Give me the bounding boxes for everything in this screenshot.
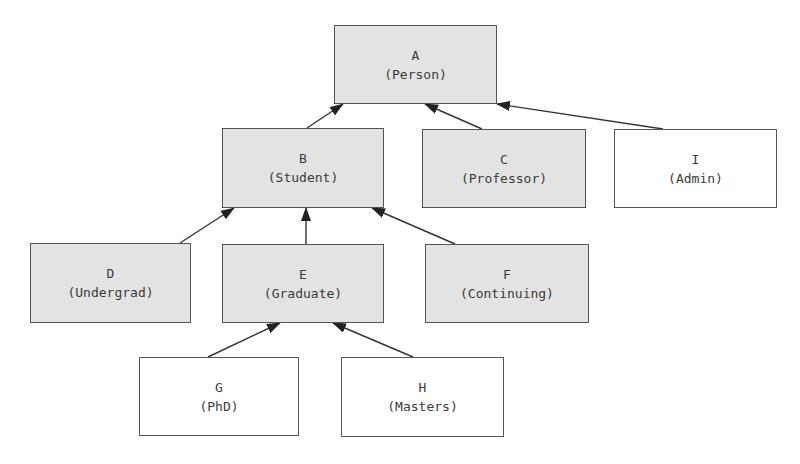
node-label: (PhD) (199, 397, 238, 416)
inheritance-arrow-f-to-b (372, 208, 455, 244)
node-label: (Admin) (668, 169, 723, 188)
class-hierarchy-diagram: A (Person) B (Student) C (Professor) I (… (0, 0, 800, 464)
inheritance-arrow-i-to-a (497, 104, 663, 129)
node-b-student: B (Student) (222, 128, 384, 208)
node-letter: H (419, 378, 427, 397)
node-label: (Professor) (461, 169, 547, 188)
node-label: (Person) (384, 65, 447, 84)
inheritance-arrow-c-to-a (425, 104, 482, 129)
node-letter: C (500, 150, 508, 169)
inheritance-arrow-h-to-e (333, 323, 413, 357)
node-c-professor: C (Professor) (422, 129, 586, 208)
node-label: (Continuing) (460, 284, 554, 303)
inheritance-arrow-b-to-a (307, 104, 343, 128)
node-label: (Masters) (387, 397, 457, 416)
node-letter: F (503, 265, 511, 284)
node-d-undergrad: D (Undergrad) (30, 243, 191, 323)
node-label: (Student) (268, 168, 338, 187)
node-e-graduate: E (Graduate) (222, 244, 384, 323)
node-letter: E (299, 265, 307, 284)
node-a-person: A (Person) (334, 25, 497, 104)
node-letter: B (299, 149, 307, 168)
node-g-phd: G (PhD) (139, 357, 299, 436)
node-f-continuing: F (Continuing) (425, 244, 589, 323)
node-h-masters: H (Masters) (341, 357, 504, 437)
node-label: (Graduate) (264, 284, 342, 303)
node-letter: G (215, 378, 223, 397)
node-letter: D (107, 264, 115, 283)
inheritance-arrow-g-to-e (208, 323, 280, 357)
inheritance-arrow-d-to-b (180, 208, 234, 243)
node-label: (Undergrad) (67, 283, 153, 302)
node-i-admin: I (Admin) (614, 129, 777, 208)
node-letter: I (692, 150, 700, 169)
node-letter: A (412, 46, 420, 65)
